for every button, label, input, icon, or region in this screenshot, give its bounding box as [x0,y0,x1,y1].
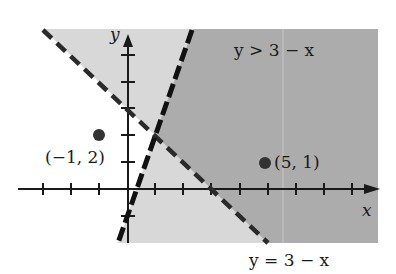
inequality-graph: y x (−1, 2) (5, 1) y > 3 − x y = 3 − x [0,0,396,274]
point-5-1 [259,157,271,169]
y-axis-label: y [109,24,120,44]
boundary-label: y = 3 − x [248,250,330,270]
point-neg1-2 [93,129,105,141]
x-axis-label: x [362,200,372,220]
point-label-5-1: (5, 1) [274,152,320,172]
region-label: y > 3 − x [233,40,315,60]
point-label-neg1-2: (−1, 2) [45,147,105,167]
